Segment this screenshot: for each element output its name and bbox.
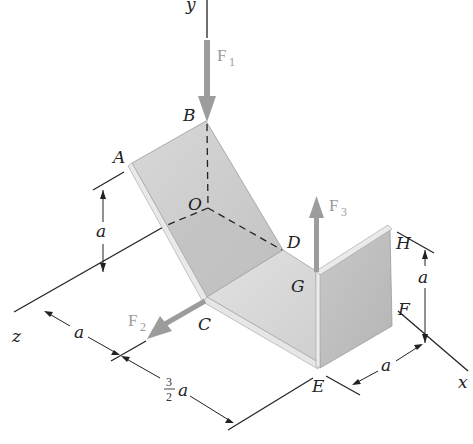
z-axis [14, 226, 165, 312]
point-A-label: A [111, 147, 125, 167]
figure-canvas: y z x F 1 F 3 F 2 B A O D G C [0, 0, 473, 444]
point-B-label: B [182, 105, 196, 125]
plate-right-corner-edge [316, 271, 320, 368]
force-F2-label: F [128, 311, 137, 330]
dimension-x-offset-denominator: 2 [166, 390, 172, 404]
dimension-z-offset-label: a [74, 322, 84, 342]
dimension-right-depth-label: a [381, 355, 391, 375]
dimension-x-offset-variable: a [178, 380, 188, 400]
force-F3-subscript: 3 [341, 205, 347, 219]
z-axis-label: z [11, 326, 22, 346]
y-axis-label: y [185, 0, 196, 14]
force-F2-subscript: 2 [140, 320, 146, 334]
dimension-x-offset [121, 356, 313, 430]
dimension-right-height-label: a [418, 267, 428, 287]
x-axis-label: x [458, 372, 468, 392]
bent-plate-diagram: y z x F 1 F 3 F 2 B A O D G C [0, 0, 473, 444]
dimension-x-offset-numerator: 3 [166, 375, 172, 389]
point-E-label: E [311, 376, 325, 396]
point-D-label: D [286, 232, 301, 252]
force-F2-arrow [147, 301, 205, 339]
point-O-label: O [188, 194, 202, 214]
point-F-label: F [397, 299, 411, 319]
force-F3-label: F [329, 196, 338, 215]
point-G-label: G [291, 276, 305, 296]
force-F1-subscript: 1 [229, 55, 235, 69]
dimension-left-height-label: a [96, 221, 106, 241]
force-F3-arrow [309, 196, 324, 272]
force-F1-label: F [217, 46, 226, 65]
force-F1-arrow [198, 40, 216, 122]
point-C-label: C [198, 314, 211, 334]
x-axis [398, 311, 468, 371]
